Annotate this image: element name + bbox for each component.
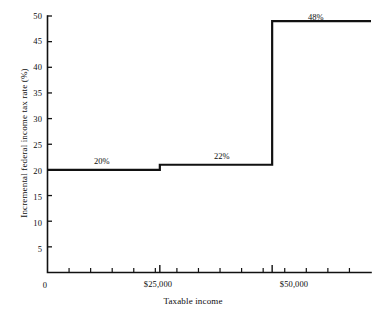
y-tick-label: 50 [20,12,42,21]
origin-tick-label: 0 [37,281,53,290]
y-axis-title: Incremental federal income tax rate (%) [19,33,29,253]
step-series-line [48,21,372,170]
step-label-48-percent: 48% [308,13,324,22]
chart-canvas [0,0,386,321]
step-label-20-percent: 20% [94,157,110,166]
step-label-22-percent: 22% [214,152,230,161]
x-tick-label-50000: $50,000 [263,280,325,289]
x-axis-ticks [69,265,349,273]
tax-rate-step-chart: 50 45 40 35 30 25 20 15 10 5 0 $25,000 $… [0,0,386,321]
chart-axes [48,16,372,273]
x-axis-title: Taxable income [0,296,386,306]
x-tick-label-25000: $25,000 [127,280,189,289]
